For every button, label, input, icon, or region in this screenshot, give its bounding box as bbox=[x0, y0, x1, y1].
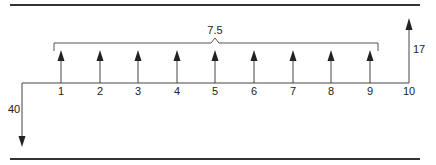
inflow-arrow-7 bbox=[290, 50, 297, 83]
inflow-arrow-5 bbox=[212, 50, 219, 83]
outflow-label: 40 bbox=[8, 103, 20, 115]
outflow-arrow-period-0 bbox=[19, 83, 26, 147]
up-arrow-icon bbox=[290, 50, 297, 61]
annuity-arrows bbox=[58, 50, 374, 83]
inflow-arrow-3 bbox=[135, 50, 142, 83]
up-arrow-icon bbox=[174, 50, 181, 61]
inflow-arrow-2 bbox=[97, 50, 104, 83]
inflow-arrow-6 bbox=[251, 50, 258, 83]
up-arrow-icon bbox=[58, 50, 65, 61]
period-label: 7 bbox=[290, 85, 296, 97]
up-arrow-icon bbox=[135, 50, 142, 61]
period-label: 2 bbox=[97, 85, 103, 97]
annuity-bracket bbox=[54, 38, 378, 51]
period-label: 9 bbox=[367, 85, 373, 97]
up-arrow-icon bbox=[406, 18, 413, 30]
period-label: 1 bbox=[58, 85, 64, 97]
up-arrow-icon bbox=[212, 50, 219, 61]
down-arrow-icon bbox=[19, 136, 26, 147]
period-label: 4 bbox=[174, 85, 180, 97]
period-label: 3 bbox=[135, 85, 141, 97]
up-arrow-icon bbox=[251, 50, 258, 61]
annuity-label: 7.5 bbox=[207, 24, 222, 36]
up-arrow-icon bbox=[328, 50, 335, 61]
inflow-arrow-1 bbox=[58, 50, 65, 83]
up-arrow-icon bbox=[97, 50, 104, 61]
up-arrow-icon bbox=[367, 50, 374, 61]
inflow-arrow-10 bbox=[406, 18, 413, 83]
period-label: 10 bbox=[403, 85, 415, 97]
inflow-arrow-4 bbox=[174, 50, 181, 83]
period-label: 6 bbox=[251, 85, 257, 97]
inflow-arrow-8 bbox=[328, 50, 335, 83]
final-inflow-label: 17 bbox=[413, 43, 425, 55]
period-label: 8 bbox=[328, 85, 334, 97]
cash-flow-diagram: 40 17 7.5 1 2 3 4 5 6 7 8 9 10 bbox=[0, 0, 436, 165]
period-label: 5 bbox=[212, 85, 218, 97]
inflow-arrow-9 bbox=[367, 50, 374, 83]
period-labels: 1 2 3 4 5 6 7 8 9 10 bbox=[58, 85, 415, 97]
